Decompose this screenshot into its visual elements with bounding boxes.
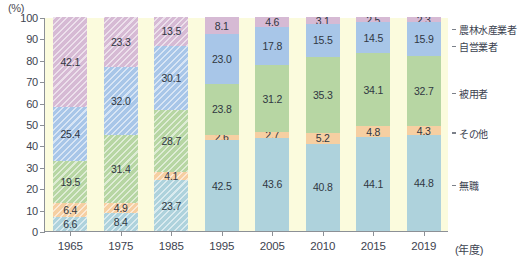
y-axis-tick [40, 82, 45, 83]
bar-segment-その他: 2.7 [255, 132, 289, 138]
x-axis-tick-label: 1975 [108, 240, 133, 252]
bar-segment-自営業者: 15.9 [407, 22, 441, 56]
y-axis-tick [40, 189, 45, 190]
legend-item-被用者[interactable]: 被用者 [452, 86, 488, 101]
bar-segment-value: 14.5 [363, 32, 383, 44]
x-axis-tick [272, 231, 273, 236]
bar-segment-無職: 42.5 [205, 140, 239, 231]
y-axis-tick-label: 30 [26, 162, 38, 174]
legend-item-農林水産業者[interactable]: 農林水産業者 [452, 22, 517, 37]
y-axis-tick [40, 61, 45, 62]
bar-segment-value: 4.8 [366, 126, 380, 136]
legend-dash-icon [452, 29, 456, 30]
x-axis-tick [121, 231, 122, 236]
bar-2015[interactable]: 44.14.834.114.52.5 [356, 17, 390, 231]
bar-segment-value: 15.5 [313, 34, 333, 46]
bar-segment-value: 23.0 [212, 53, 232, 65]
legend-label: 被用者 [459, 86, 488, 101]
bar-segment-value: 25.4 [60, 128, 80, 140]
bar-1995[interactable]: 42.52.623.823.08.1 [205, 17, 239, 231]
bar-segment-value: 4.6 [265, 17, 279, 27]
bar-2010[interactable]: 40.85.235.315.53.1 [306, 17, 340, 231]
bar-segment-農林水産業者: 4.6 [255, 17, 289, 27]
bar-segment-農林水産業者: 13.5 [154, 17, 188, 46]
bar-segment-value: 19.5 [60, 176, 80, 188]
bar-segment-value: 31.4 [111, 163, 131, 175]
legend-dash-icon [452, 185, 456, 186]
x-axis-tick [70, 231, 71, 236]
bar-1975[interactable]: 8.44.931.432.023.3 [104, 17, 138, 231]
y-axis-tick [40, 39, 45, 40]
y-axis-tick-label: 0 [32, 226, 38, 238]
bar-segment-自営業者: 15.5 [306, 24, 340, 57]
bar-segment-自営業者: 23.0 [205, 34, 239, 83]
bar-segment-被用者: 23.8 [205, 84, 239, 135]
bar-segment-value: 8.1 [215, 20, 229, 32]
plot-area: 01020304050607080901006.66.419.525.442.1… [44, 18, 448, 232]
bar-segment-自営業者: 17.8 [255, 27, 289, 65]
legend-item-自営業者[interactable]: 自営業者 [452, 39, 497, 54]
bar-segment-value: 40.8 [313, 181, 333, 193]
bar-segment-value: 3.1 [316, 17, 330, 24]
bar-segment-value: 2.3 [417, 17, 431, 22]
bar-segment-value: 35.3 [313, 89, 333, 101]
legend-item-その他[interactable]: その他 [452, 126, 488, 141]
legend-dash-icon [452, 93, 456, 94]
bar-segment-value: 28.7 [161, 135, 181, 147]
bar-segment-農林水産業者: 3.1 [306, 17, 340, 24]
bar-segment-無職: 6.6 [53, 217, 87, 231]
x-axis-tick-label: 2015 [361, 240, 386, 252]
bar-segment-value: 44.1 [363, 178, 383, 190]
bar-segment-自営業者: 14.5 [356, 22, 390, 53]
x-axis-tick [323, 231, 324, 236]
x-axis-tick [171, 231, 172, 236]
bar-segment-被用者: 34.1 [356, 53, 390, 126]
bar-segment-value: 2.6 [215, 135, 229, 141]
x-axis-tick-label: 1985 [159, 240, 184, 252]
x-axis-tick-label: 2019 [411, 240, 436, 252]
y-axis-tick-label: 100 [20, 12, 38, 24]
bar-segment-その他: 2.6 [205, 135, 239, 141]
bar-segment-無職: 23.7 [154, 180, 188, 231]
legend-label: 無職 [459, 178, 478, 193]
bar-segment-value: 17.8 [262, 40, 282, 52]
bar-segment-無職: 8.4 [104, 213, 138, 231]
bar-segment-value: 15.9 [414, 33, 434, 45]
x-axis-tick [373, 231, 374, 236]
bar-segment-value: 2.5 [366, 17, 380, 22]
bar-segment-その他: 5.2 [306, 133, 340, 144]
bar-segment-value: 34.1 [363, 84, 383, 96]
bar-segment-value: 6.6 [63, 218, 77, 230]
bar-segment-value: 23.7 [161, 200, 181, 212]
legend-item-無職[interactable]: 無職 [452, 178, 478, 193]
bar-segment-value: 4.3 [417, 126, 431, 135]
chart-legend: 農林水産業者自営業者被用者その他無職 [452, 0, 519, 270]
bar-segment-その他: 6.4 [53, 203, 87, 217]
y-axis-tick [40, 104, 45, 105]
bar-segment-value: 42.5 [212, 180, 232, 192]
chart-root: (%) 01020304050607080901006.66.419.525.4… [0, 0, 519, 270]
legend-dash-icon [452, 46, 456, 47]
bar-segment-value: 2.7 [265, 132, 279, 138]
bar-1965[interactable]: 6.66.419.525.442.1 [53, 17, 87, 231]
bar-segment-無職: 44.8 [407, 135, 441, 231]
y-axis-tick-label: 60 [26, 98, 38, 110]
bar-segment-農林水産業者: 2.5 [356, 17, 390, 22]
bar-segment-value: 6.4 [63, 204, 77, 216]
y-axis-tick-label: 50 [26, 119, 38, 131]
bar-2019[interactable]: 44.84.332.715.92.3 [407, 17, 441, 231]
y-axis-tick-label: 10 [26, 205, 38, 217]
y-axis-tick-label: 80 [26, 55, 38, 67]
bar-segment-被用者: 32.7 [407, 56, 441, 126]
bar-segment-被用者: 31.2 [255, 65, 289, 132]
y-axis-tick [40, 18, 45, 19]
bar-2005[interactable]: 43.62.731.217.84.6 [255, 17, 289, 231]
y-axis-tick-label: 20 [26, 183, 38, 195]
bar-segment-自営業者: 30.1 [154, 46, 188, 110]
bar-1985[interactable]: 23.74.128.730.113.5 [154, 17, 188, 231]
bar-segment-被用者: 28.7 [154, 110, 188, 171]
y-axis-tick [40, 168, 45, 169]
x-axis-tick [424, 231, 425, 236]
bar-segment-無職: 44.1 [356, 137, 390, 231]
bar-segment-value: 31.2 [262, 93, 282, 105]
